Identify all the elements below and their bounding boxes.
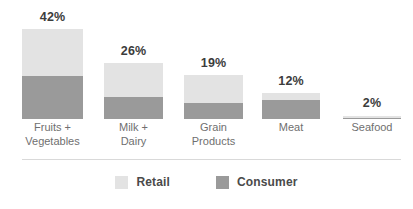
legend-swatch-consumer-icon bbox=[216, 176, 229, 189]
legend-divider bbox=[22, 159, 401, 160]
bar-stack-fruits-vegetables bbox=[22, 29, 83, 119]
chart-plot-area: 42% 26% 19% 12% bbox=[0, 0, 413, 119]
category-label-line1: Milk + bbox=[104, 121, 163, 135]
bar-stack-grain-products bbox=[184, 75, 243, 119]
bar-group-meat[interactable]: 12% bbox=[262, 0, 320, 119]
category-label-line2: Products bbox=[184, 135, 243, 149]
legend-item-consumer[interactable]: Consumer bbox=[216, 175, 298, 189]
category-label-line2: Dairy bbox=[104, 135, 163, 149]
bar-value-grain-products: 19% bbox=[184, 56, 243, 70]
category-axis: Fruits + Vegetables Milk + Dairy Grain P… bbox=[0, 121, 413, 155]
bar-segment-consumer-grain-products[interactable] bbox=[184, 103, 243, 119]
bar-segment-consumer-meat[interactable] bbox=[262, 100, 320, 119]
bar-group-seafood[interactable]: 2% bbox=[343, 0, 401, 119]
category-label-fruits-vegetables: Fruits + Vegetables bbox=[22, 121, 83, 148]
category-label-line1: Fruits + bbox=[22, 121, 83, 135]
bar-segment-consumer-fruits-vegetables[interactable] bbox=[22, 76, 83, 119]
legend-label-consumer: Consumer bbox=[237, 175, 298, 189]
category-label-line1: Seafood bbox=[343, 121, 401, 135]
bar-stack-milk-dairy bbox=[104, 63, 163, 119]
bar-value-seafood: 2% bbox=[343, 96, 401, 110]
bar-stack-seafood bbox=[343, 116, 401, 119]
bar-group-fruits-vegetables[interactable]: 42% bbox=[22, 0, 83, 119]
bar-segment-retail-milk-dairy[interactable] bbox=[104, 63, 163, 97]
category-label-meat: Meat bbox=[262, 121, 320, 135]
bar-stack-meat bbox=[262, 93, 320, 119]
category-label-line1: Grain bbox=[184, 121, 243, 135]
chart-legend: Retail Consumer bbox=[0, 172, 413, 192]
bar-group-grain-products[interactable]: 19% bbox=[184, 0, 243, 119]
category-label-seafood: Seafood bbox=[343, 121, 401, 135]
stacked-bar-chart: 42% 26% 19% 12% bbox=[0, 0, 413, 209]
legend-swatch-retail-icon bbox=[115, 176, 128, 189]
category-label-grain-products: Grain Products bbox=[184, 121, 243, 148]
legend-item-retail[interactable]: Retail bbox=[115, 175, 170, 189]
bar-segment-consumer-seafood[interactable] bbox=[343, 118, 401, 119]
category-label-milk-dairy: Milk + Dairy bbox=[104, 121, 163, 148]
bar-segment-consumer-milk-dairy[interactable] bbox=[104, 97, 163, 119]
category-label-line1: Meat bbox=[262, 121, 320, 135]
category-label-line2: Vegetables bbox=[22, 135, 83, 149]
bar-segment-retail-meat[interactable] bbox=[262, 93, 320, 100]
bar-group-milk-dairy[interactable]: 26% bbox=[104, 0, 163, 119]
bar-segment-retail-fruits-vegetables[interactable] bbox=[22, 29, 83, 76]
bar-value-meat: 12% bbox=[262, 74, 320, 88]
bar-value-fruits-vegetables: 42% bbox=[22, 10, 83, 24]
legend-label-retail: Retail bbox=[136, 175, 170, 189]
bar-value-milk-dairy: 26% bbox=[104, 44, 163, 58]
bar-segment-retail-grain-products[interactable] bbox=[184, 75, 243, 103]
